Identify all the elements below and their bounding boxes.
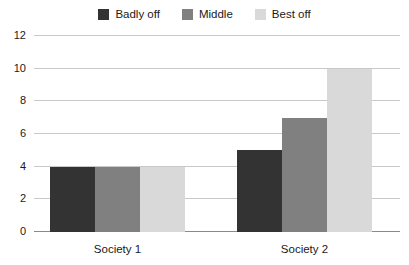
legend-label: Best off: [272, 8, 311, 20]
x-axis-category-label: Society 2: [237, 243, 372, 255]
y-axis-tick-label: 8: [0, 95, 26, 106]
y-axis-tick-label: 10: [0, 63, 26, 74]
bar-chart: Badly offMiddleBest off 024681012 Societ…: [0, 0, 409, 265]
bar[interactable]: [140, 167, 185, 232]
x-axis-category-label: Society 1: [50, 243, 185, 255]
legend-swatch-middle: [182, 9, 193, 20]
legend-entry[interactable]: Badly off: [98, 8, 160, 20]
y-axis-tick-label: 2: [0, 193, 26, 204]
legend-entry[interactable]: Best off: [255, 8, 311, 20]
legend-swatch-best-off: [255, 9, 266, 20]
legend-swatch-badly-off: [98, 9, 109, 20]
bar[interactable]: [237, 150, 282, 232]
legend-label: Badly off: [115, 8, 160, 20]
y-axis-tick-label: 0: [0, 226, 26, 237]
gridline: [34, 35, 400, 36]
y-axis-tick-label: 12: [0, 30, 26, 41]
bar[interactable]: [95, 167, 140, 232]
y-axis-tick-label: 6: [0, 128, 26, 139]
y-axis-tick-label: 4: [0, 161, 26, 172]
chart-legend: Badly offMiddleBest off: [0, 8, 409, 20]
legend-label: Middle: [199, 8, 233, 20]
bar[interactable]: [327, 69, 372, 232]
plot-area: [34, 36, 400, 232]
bar[interactable]: [282, 118, 327, 232]
bar[interactable]: [50, 167, 95, 232]
legend-entry[interactable]: Middle: [182, 8, 233, 20]
